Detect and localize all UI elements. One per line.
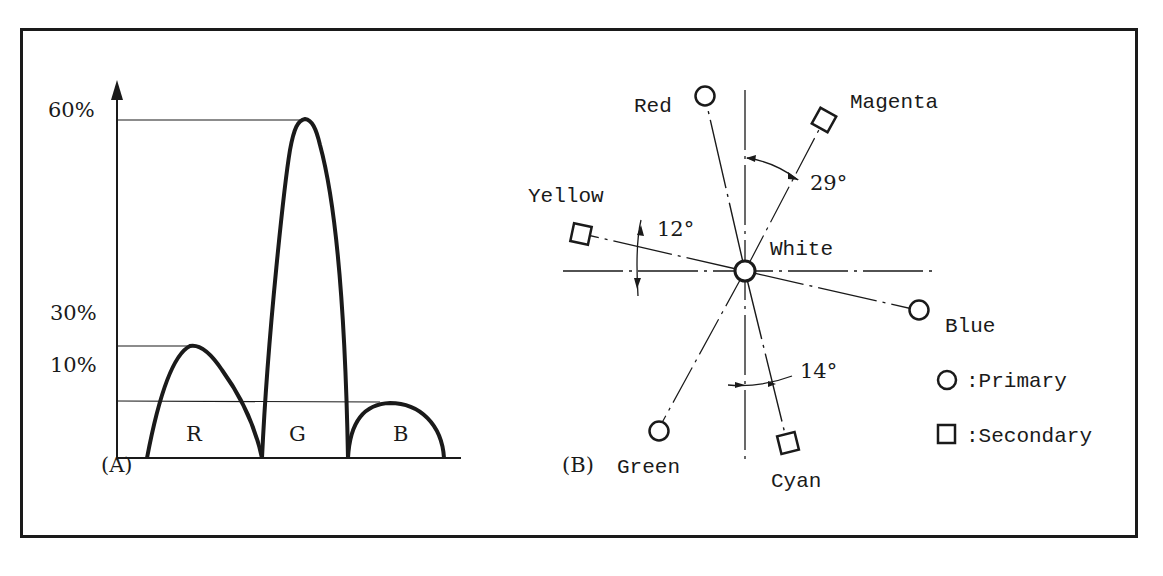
ref-line-10 bbox=[117, 401, 380, 402]
blue-label: Blue bbox=[945, 315, 995, 338]
legend-primary-icon bbox=[938, 371, 956, 389]
panel-a-label: (A) bbox=[101, 453, 133, 477]
magenta-point-icon bbox=[812, 108, 836, 132]
y-tick-10: 10% bbox=[50, 353, 97, 377]
y-tick-60: 60% bbox=[48, 98, 95, 122]
red-label: Red bbox=[634, 95, 672, 118]
angle-label-12: 12° bbox=[657, 217, 694, 241]
white-point-icon bbox=[735, 261, 755, 281]
yellow-label: Yellow bbox=[528, 185, 604, 208]
spoke-green bbox=[658, 271, 745, 430]
green-point-icon bbox=[650, 422, 669, 441]
spoke-red bbox=[705, 97, 745, 271]
spoke-cyan bbox=[745, 271, 787, 442]
panel-a-chart: 60% 30% 10% R G B (A) bbox=[48, 80, 461, 477]
x-label-r: R bbox=[186, 422, 203, 446]
spoke-blue bbox=[745, 271, 917, 310]
red-point-icon bbox=[696, 87, 715, 106]
blue-point-icon bbox=[910, 301, 929, 320]
legend-primary-label: :Primary bbox=[966, 370, 1067, 393]
white-label: White bbox=[770, 238, 833, 261]
y-axis-arrow-icon bbox=[111, 80, 123, 100]
y-tick-30: 30% bbox=[50, 301, 97, 325]
panel-b-label: (B) bbox=[562, 453, 594, 477]
cyan-label: Cyan bbox=[771, 470, 821, 493]
green-label: Green bbox=[617, 456, 680, 479]
legend-secondary-icon bbox=[938, 425, 955, 443]
x-label-g: G bbox=[289, 422, 306, 446]
legend-secondary-label: :Secondary bbox=[966, 425, 1092, 448]
magenta-label: Magenta bbox=[850, 91, 938, 114]
angle-label-14: 14° bbox=[800, 359, 837, 383]
cyan-point-icon bbox=[777, 432, 799, 454]
yellow-point-icon bbox=[570, 223, 591, 244]
panel-b-diagram: White Red Magenta Yellow Blue Green Cyan… bbox=[528, 87, 1092, 494]
x-label-b: B bbox=[393, 422, 408, 446]
angle-label-29: 29° bbox=[810, 171, 847, 195]
lobe-g bbox=[262, 119, 348, 458]
figure-canvas: 60% 30% 10% R G B (A) White bbox=[0, 0, 1163, 576]
